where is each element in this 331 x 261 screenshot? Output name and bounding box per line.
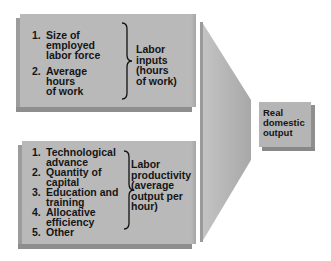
brace-icon	[120, 22, 134, 100]
item-number: 5.	[32, 227, 41, 237]
item-text: Technological advance	[46, 146, 116, 168]
list-item: 1. Technological advance	[32, 147, 118, 167]
box-shade	[191, 14, 196, 107]
item-number: 3.	[32, 187, 41, 197]
list-item: 4. Allocative efficiency	[32, 207, 118, 227]
item-number: 4.	[32, 207, 41, 217]
labor-inputs-label: Labor inputs (hours of work)	[136, 44, 177, 86]
labor-inputs-box: 1. Size of employed labor force 2. Avera…	[20, 14, 196, 107]
real-domestic-output-label: Real domestic output	[263, 108, 305, 138]
box-side-left	[18, 145, 22, 244]
labor-inputs-list: 1. Size of employed labor force 2. Avera…	[32, 30, 100, 96]
item-text: Education and training	[46, 186, 118, 208]
item-text: Other	[46, 226, 74, 238]
item-text: Average hours of work	[46, 65, 87, 97]
box-side-bottom	[18, 244, 192, 249]
item-number: 2.	[32, 167, 41, 177]
item-number: 1.	[32, 30, 41, 40]
labor-productivity-list: 1. Technological advance 2. Quantity of …	[32, 147, 118, 237]
item-number: 1.	[32, 147, 41, 157]
funnel-shape	[200, 20, 256, 246]
labor-productivity-label: Labor productivity (average output per h…	[131, 159, 191, 212]
list-item: 5. Other	[32, 227, 118, 237]
box-side-right	[311, 105, 315, 151]
list-item: 1. Size of employed labor force	[32, 30, 100, 60]
item-text: Size of employed labor force	[46, 29, 100, 61]
item-text: Quantity of capital	[46, 166, 101, 188]
list-item: 2. Quantity of capital	[32, 167, 118, 187]
box-side-bottom	[16, 107, 192, 112]
box-shade	[191, 141, 196, 244]
list-item: 3. Education and training	[32, 187, 118, 207]
box-side-left	[16, 18, 20, 107]
list-item: 2. Average hours of work	[32, 66, 100, 96]
box-side-bottom	[262, 147, 315, 151]
item-number: 2.	[32, 66, 41, 76]
real-domestic-output-box: Real domestic output	[259, 102, 311, 147]
labor-productivity-box: 1. Technological advance 2. Quantity of …	[22, 141, 196, 244]
item-text: Allocative efficiency	[46, 206, 96, 228]
